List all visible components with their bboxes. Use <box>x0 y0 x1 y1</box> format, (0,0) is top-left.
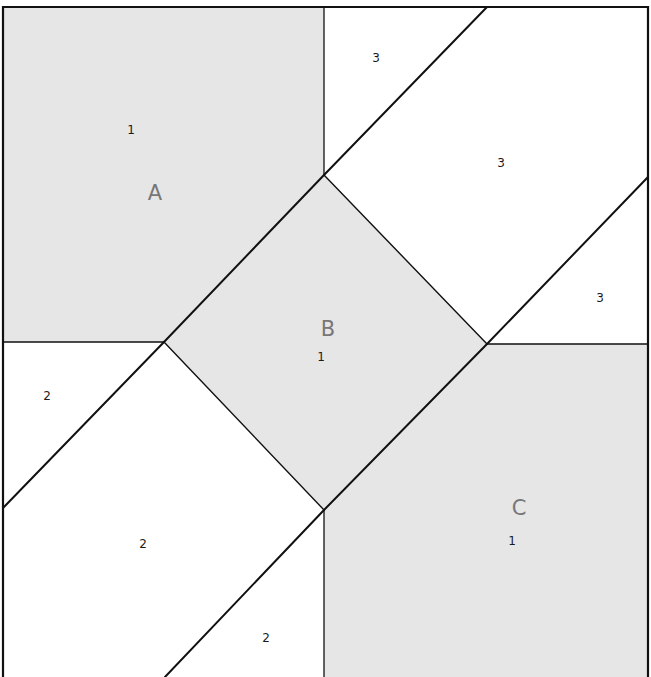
unit-label-a: A <box>148 181 163 205</box>
piece-label: 2 <box>43 389 51 403</box>
piece-label: 1 <box>127 123 135 137</box>
unit-label-c: C <box>512 496 527 520</box>
piece-label: 2 <box>262 631 270 645</box>
piece-label: 1 <box>508 534 516 548</box>
unit-label-b: B <box>321 317 335 341</box>
diagram-svg: A B C 1 3 3 3 1 2 2 2 1 <box>0 0 651 677</box>
piece-label: 3 <box>372 51 380 65</box>
quilt-block-diagram: A B C 1 3 3 3 1 2 2 2 1 <box>0 0 651 677</box>
piece-label: 1 <box>317 350 325 364</box>
piece-label: 2 <box>139 537 147 551</box>
piece-label: 3 <box>497 156 505 170</box>
piece-label: 3 <box>596 291 604 305</box>
